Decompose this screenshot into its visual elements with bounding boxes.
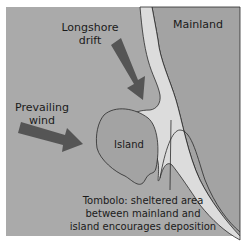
longshore-label-line2: drift bbox=[79, 34, 102, 47]
tombolo-label-line1: Tombolo: sheltered area bbox=[82, 195, 204, 206]
prevailing-label-line1: Prevailing bbox=[15, 101, 69, 114]
mainland-label: Mainland bbox=[173, 18, 223, 31]
tombolo-diagram: Mainland Longshore drift Prevailing wind… bbox=[0, 0, 244, 251]
prevailing-label-line2: wind bbox=[29, 114, 55, 127]
longshore-label-line1: Longshore bbox=[61, 21, 118, 34]
tombolo-label-line3: island encourages deposition bbox=[70, 221, 216, 232]
tombolo-label-line2: between mainland and bbox=[86, 208, 201, 219]
island-label: Island bbox=[114, 139, 144, 150]
